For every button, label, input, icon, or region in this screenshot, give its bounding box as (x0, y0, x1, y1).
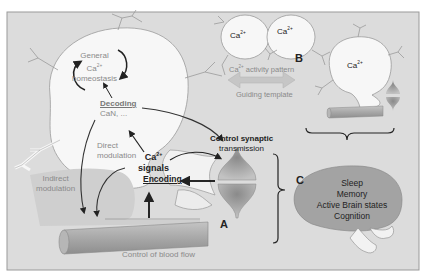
brain-function-cognition: Cognition (316, 211, 388, 222)
encoding-label: Encoding (143, 175, 182, 185)
brain-function-memory: Memory (316, 189, 388, 200)
guiding-template-label: Guiding template (236, 91, 293, 100)
activity-pattern-label: Ca2+ activity pattern (229, 64, 294, 74)
homeostasis-label: General Ca2+ homeostasis (72, 51, 117, 84)
panel-label-b: B (295, 52, 303, 65)
panel-label-c: C (296, 174, 304, 187)
cell2-ca-label: Ca2+ (277, 26, 293, 36)
ca-signals-label: Ca2+ signals (138, 149, 169, 174)
decoding-label: Decoding CaN, ... (100, 99, 136, 119)
control-synaptic-transmission-label: Control synaptic transmission (210, 134, 273, 154)
cell3-ca-label: Ca2+ (347, 60, 363, 70)
brain-functions-list: Sleep Memory Active Brain states Cogniti… (316, 178, 388, 222)
cell1-ca-label: Ca2+ (230, 30, 246, 40)
brain-function-active-states: Active Brain states (316, 200, 388, 211)
direct-modulation-label: Direct modulation (97, 141, 136, 161)
indirect-modulation-label: Indirect modulation (36, 174, 75, 194)
brain-function-sleep: Sleep (316, 178, 388, 189)
astrocyte-calcium-signaling-figure: General Ca2+ homeostasis Decoding CaN, .… (0, 0, 426, 276)
control-blood-flow-label: Control of blood flow (122, 250, 195, 259)
panel-label-a: A (220, 218, 228, 231)
